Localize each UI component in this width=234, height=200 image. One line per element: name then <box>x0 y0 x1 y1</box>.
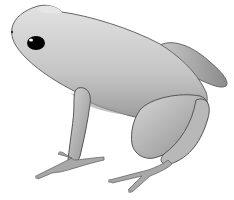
hind-foot <box>108 160 172 193</box>
eye <box>27 36 45 50</box>
nostril <box>11 31 13 33</box>
front-leg <box>68 88 90 164</box>
frog-illustration: frog <box>0 0 234 200</box>
frog-drawing <box>0 0 234 200</box>
